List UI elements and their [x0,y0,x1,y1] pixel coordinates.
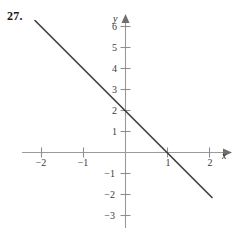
y-tick-label: −3 [99,210,115,221]
coordinate-plot [0,0,236,235]
y-tick-label: 3 [101,84,117,95]
y-tick-label: 2 [101,105,117,116]
graph-figure: 27. 6 5 [0,0,236,235]
y-axis-arrow-icon [122,14,130,23]
y-tick-label: 4 [101,63,117,74]
x-tick-label: −1 [74,157,92,168]
x-axis-label: x [222,150,226,161]
y-tick-label: −2 [99,189,115,200]
y-tick-label: −1 [99,168,115,179]
x-tick-label: 2 [201,157,219,168]
x-tick-label: 1 [159,157,177,168]
y-axis-label: y [113,13,117,24]
y-tick-label: 1 [101,126,117,137]
y-tick-label: 5 [101,42,117,53]
x-tick-label: −2 [32,157,50,168]
